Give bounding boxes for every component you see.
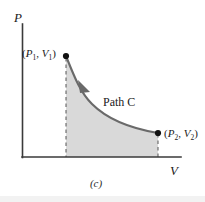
y-axis-label: P (13, 10, 22, 25)
figure-container: P V (P1, V1) (P2, V2) Path C (c) (0, 0, 205, 202)
pv-diagram: P V (P1, V1) (P2, V2) Path C (c) (0, 0, 205, 202)
point-label-start: (P1, V1) (22, 47, 56, 62)
direction-arrow-icon (78, 80, 90, 93)
point-label-end: (P2, V2) (164, 127, 198, 142)
bottom-band (0, 196, 205, 202)
data-point-start (63, 53, 69, 59)
path-c-label: Path C (103, 95, 135, 109)
figure-caption: (c) (90, 177, 103, 190)
x-axis-label: V (170, 163, 180, 178)
data-point-end (155, 130, 161, 136)
